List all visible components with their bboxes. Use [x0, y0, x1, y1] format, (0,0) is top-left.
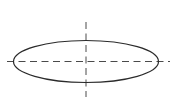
drawing-canvas	[0, 0, 173, 110]
ellipse-drawing-svg	[0, 0, 173, 110]
